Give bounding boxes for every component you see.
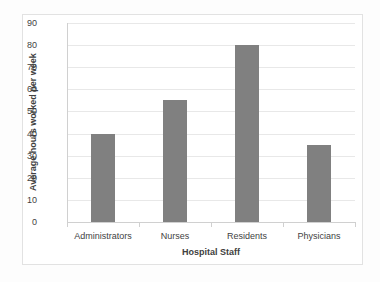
bar-chart: Average hours worked per week 9080706050…: [0, 0, 380, 282]
y-tick-label: 0: [0, 217, 37, 227]
x-tick-label: Physicians: [283, 229, 355, 243]
bar-slot: [283, 23, 355, 222]
y-tick-label: 60: [0, 84, 37, 94]
y-tick-label: 30: [0, 151, 37, 161]
x-axis-ticks: [67, 222, 355, 227]
x-axis-labels: AdministratorsNursesResidentsPhysicians: [67, 229, 355, 243]
bar-physicians: [307, 145, 331, 222]
y-tick-label: 20: [0, 173, 37, 183]
bar-slot: [211, 23, 283, 222]
bar-residents: [235, 45, 259, 222]
x-tick: [211, 222, 212, 227]
x-tick-label: Administrators: [67, 229, 139, 243]
y-tick-label: 50: [0, 106, 37, 116]
bar-slot: [67, 23, 139, 222]
y-tick-label: 40: [0, 129, 37, 139]
bar-slot: [139, 23, 211, 222]
x-tick: [283, 222, 284, 227]
x-tick-label: Nurses: [139, 229, 211, 243]
y-tick-label: 70: [0, 62, 37, 72]
y-tick-label: 90: [0, 18, 37, 28]
x-tick-label: Residents: [211, 229, 283, 243]
x-tick: [139, 222, 140, 227]
y-tick-label: 80: [0, 40, 37, 50]
x-tick: [355, 222, 356, 227]
x-tick: [67, 222, 68, 227]
y-tick-label: 10: [0, 195, 37, 205]
bar-nurses: [163, 100, 187, 222]
bars-layer: [67, 23, 355, 222]
y-axis-title: Average hours worked per week: [26, 22, 40, 222]
x-axis-title: Hospital Staff: [67, 246, 355, 258]
bar-administrators: [91, 134, 115, 222]
